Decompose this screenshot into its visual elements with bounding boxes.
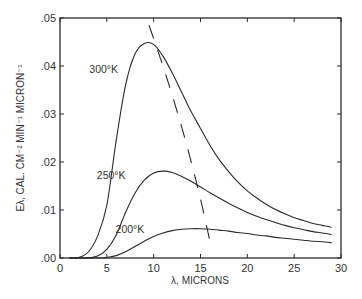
wien-displacement-line	[149, 25, 210, 241]
x-tick-label: 15	[194, 262, 206, 274]
curve-label: 250°K	[97, 169, 126, 181]
curve-labels: 300°K250°K200°K	[89, 63, 144, 234]
y-axis-title: Eλ, CAL. CM⁻² MIN⁻¹ MICRON⁻¹	[15, 64, 26, 212]
x-tick-label: 30	[335, 262, 347, 274]
x-tick-label: 10	[148, 262, 160, 274]
curve-200k	[69, 229, 331, 258]
curve-label: 200°K	[116, 223, 145, 235]
y-tick-label: .02	[41, 156, 56, 168]
curve-label: 300°K	[89, 63, 118, 75]
x-axis-title: λ, MICRONS	[171, 275, 229, 286]
x-tick-label: 20	[241, 262, 253, 274]
y-tick-label: .04	[41, 60, 56, 72]
y-tick-label: .05	[41, 12, 56, 24]
y-tick-label: .03	[41, 108, 56, 120]
blackbody-chart: .00.01.02.03.04.05 051015202530 300°K250…	[0, 0, 362, 299]
x-tick-label: 0	[57, 262, 63, 274]
curve-250k	[69, 171, 331, 258]
y-tick-label: .01	[41, 204, 56, 216]
x-tick-label: 25	[288, 262, 300, 274]
y-tick-label: .00	[41, 252, 56, 264]
x-axis-ticks: 051015202530	[57, 18, 347, 274]
y-axis-ticks: .00.01.02.03.04.05	[41, 12, 341, 264]
x-tick-label: 5	[104, 262, 110, 274]
